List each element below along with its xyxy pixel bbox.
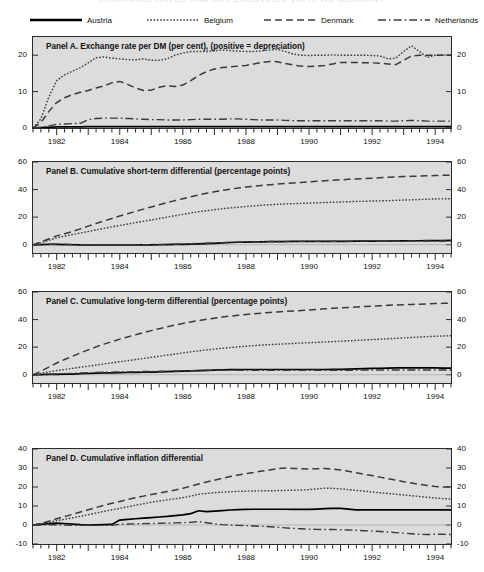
- panel-c-xtick-1982: 1982: [37, 392, 77, 401]
- panel-d-ytick-left: 0: [0, 520, 27, 529]
- panel-b-ytick-right: 0: [457, 240, 461, 249]
- panel-b-xtick-1982: 1982: [37, 262, 77, 271]
- legend-swatch-dashdot-icon: [378, 15, 430, 25]
- legend-label: Belgium: [204, 16, 233, 25]
- panel-a: Panel A. Exchange rate per DM (per cent)…: [0, 34, 484, 153]
- panel-d-xtick-1986: 1986: [163, 553, 203, 562]
- panel-c-xtick-1984: 1984: [100, 392, 140, 401]
- panel-c-xtick-1994: 1994: [415, 392, 455, 401]
- panel-a-title: Panel A. Exchange rate per DM (per cent)…: [46, 42, 305, 51]
- panel-a-xtick-1986: 1986: [163, 137, 203, 146]
- legend-label: Austria: [87, 16, 112, 25]
- panel-c: Panel C. Cumulative long-term differenti…: [0, 289, 484, 408]
- panel-d-ytick-left: 20: [0, 482, 27, 491]
- panel-d-ytick-right: -10: [457, 539, 469, 548]
- panel-d-xtick-1994: 1994: [415, 553, 455, 562]
- legend-swatch-dotted-icon: [147, 15, 199, 25]
- panel-b-xtick-1990: 1990: [289, 262, 329, 271]
- panel-b-ytick-left: 60: [0, 157, 27, 166]
- panel-a-xtick-1990: 1990: [289, 137, 329, 146]
- panel-a-ytick-left: 0: [0, 123, 27, 132]
- panel-c-ytick-left: 60: [0, 287, 27, 296]
- panel-a-ytick-right: 20: [457, 50, 466, 59]
- legend-item-netherlands: Netherlands: [378, 13, 478, 27]
- panel-b-ytick-left: 20: [0, 212, 27, 221]
- legend-swatch-solid-icon: [30, 15, 82, 25]
- panel-b-ytick-left: 0: [0, 240, 27, 249]
- panel-c-xtick-1986: 1986: [163, 392, 203, 401]
- figure-title: EXCHANGE RATES AND DIFFERENTIALS VIS-A-V…: [0, 0, 484, 2]
- panel-c-xtick-1990: 1990: [289, 392, 329, 401]
- panel-c-ytick-right: 40: [457, 315, 466, 324]
- panel-a-xtick-1994: 1994: [415, 137, 455, 146]
- panel-a-xtick-1992: 1992: [352, 137, 392, 146]
- legend-item-denmark: Denmark: [264, 13, 353, 27]
- panel-a-xtick-1982: 1982: [37, 137, 77, 146]
- legend-item-belgium: Belgium: [147, 13, 233, 27]
- panel-a-ytick-left: 20: [0, 50, 27, 59]
- panel-b-ytick-right: 60: [457, 157, 466, 166]
- panel-a-ytick-right: 10: [457, 87, 466, 96]
- panel-b-xtick-1994: 1994: [415, 262, 455, 271]
- panel-b-title: Panel B. Cumulative short-term different…: [46, 167, 290, 176]
- panel-c-ytick-right: 60: [457, 287, 466, 296]
- panel-c-xtick-1988: 1988: [226, 392, 266, 401]
- figure-legend: AustriaBelgiumDenmarkNetherlands: [0, 13, 484, 27]
- panel-b-ytick-right: 20: [457, 212, 466, 221]
- panel-b-ytick-right: 40: [457, 185, 466, 194]
- figure-root: EXCHANGE RATES AND DIFFERENTIALS VIS-A-V…: [0, 0, 484, 572]
- panel-d-xtick-1992: 1992: [352, 553, 392, 562]
- panel-d-ytick-right: 30: [457, 463, 466, 472]
- legend-item-austria: Austria: [30, 13, 112, 27]
- panel-d-xtick-1988: 1988: [226, 553, 266, 562]
- panel-d-ytick-right: 20: [457, 482, 466, 491]
- panel-c-ytick-right: 20: [457, 342, 466, 351]
- panel-b: Panel B. Cumulative short-term different…: [0, 159, 484, 278]
- panel-d-ytick-right: 10: [457, 501, 466, 510]
- panel-a-xtick-1988: 1988: [226, 137, 266, 146]
- panel-b-ytick-left: 40: [0, 185, 27, 194]
- panel-d-xtick-1990: 1990: [289, 553, 329, 562]
- panel-b-xtick-1986: 1986: [163, 262, 203, 271]
- panel-d-xtick-1984: 1984: [100, 553, 140, 562]
- panel-c-ytick-left: 40: [0, 315, 27, 324]
- panel-d-ytick-left: -10: [0, 539, 27, 548]
- legend-label: Netherlands: [435, 16, 478, 25]
- panel-d-title: Panel D. Cumulative inflation differenti…: [46, 454, 203, 463]
- panel-d-ytick-right: 40: [457, 444, 466, 453]
- panel-b-xtick-1992: 1992: [352, 262, 392, 271]
- panel-a-xtick-1984: 1984: [100, 137, 140, 146]
- panel-c-xtick-1992: 1992: [352, 392, 392, 401]
- panel-a-ytick-right: 0: [457, 123, 461, 132]
- panel-d-ytick-left: 30: [0, 463, 27, 472]
- panel-b-xtick-1988: 1988: [226, 262, 266, 271]
- panel-d: Panel D. Cumulative inflation differenti…: [0, 446, 484, 569]
- panel-d-ytick-left: 10: [0, 501, 27, 510]
- panel-c-ytick-left: 0: [0, 370, 27, 379]
- panel-b-xtick-1984: 1984: [100, 262, 140, 271]
- panel-c-title: Panel C. Cumulative long-term differenti…: [46, 297, 287, 306]
- panel-d-ytick-left: 40: [0, 444, 27, 453]
- panel-a-ytick-left: 10: [0, 87, 27, 96]
- panel-c-ytick-left: 20: [0, 342, 27, 351]
- panel-d-xtick-1982: 1982: [37, 553, 77, 562]
- legend-swatch-dashed-icon: [264, 15, 316, 25]
- panel-d-ytick-right: 0: [457, 520, 461, 529]
- legend-label: Denmark: [321, 16, 353, 25]
- panel-c-ytick-right: 0: [457, 370, 461, 379]
